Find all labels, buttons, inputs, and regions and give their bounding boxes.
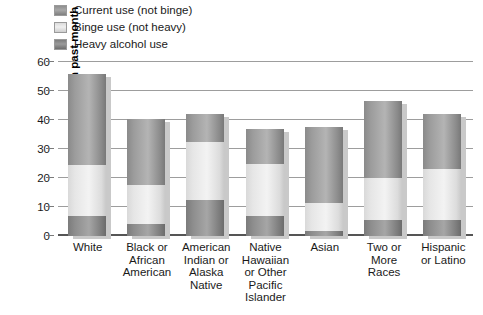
legend-label: Heavy alcohol use: [74, 38, 168, 51]
y-axis-tick-mark: [46, 148, 54, 149]
bar-group: [423, 62, 461, 236]
y-axis-tick-label: 60: [4, 57, 50, 69]
bar-segment-binge-use: [364, 178, 402, 220]
bar-segment-binge-use: [423, 169, 461, 220]
legend-swatch-current-use-icon: [54, 5, 67, 16]
x-axis-label-line: or Other: [232, 266, 299, 279]
x-axis-label-line: Two or: [350, 241, 417, 254]
chart-legend: Current use (not binge) Binge use (not h…: [54, 2, 314, 53]
y-axis-tick-label: 30: [4, 144, 50, 156]
bar-segment-heavy-use: [68, 216, 106, 236]
x-axis-label-line: Indian or: [173, 254, 240, 267]
x-axis-label-line: American: [113, 266, 180, 279]
bar-segment-current-use: [364, 101, 402, 178]
bar-segment-heavy-use: [423, 220, 461, 236]
stacked-bar: [246, 129, 284, 236]
x-axis-category-label: Black orAfricanAmerican: [113, 241, 180, 279]
x-axis-label-line: Hawaiian: [232, 254, 299, 267]
x-axis-label-line: Pacific: [232, 279, 299, 292]
y-axis-tick-mark: [46, 206, 54, 207]
x-axis-label-line: Races: [350, 266, 417, 279]
x-axis-label-line: Islander: [232, 291, 299, 304]
bar-group: [305, 62, 343, 236]
bar-group: [127, 62, 165, 236]
y-axis-tick-label: 0: [4, 231, 50, 243]
stacked-bar: [127, 119, 165, 236]
x-axis-label-line: Black or: [113, 241, 180, 254]
bar-segment-binge-use: [186, 142, 224, 200]
legend-item: Current use (not binge): [54, 2, 314, 18]
y-axis-tick-label: 20: [4, 173, 50, 185]
x-axis-label-line: Alaska: [173, 266, 240, 279]
stacked-bar: [364, 101, 402, 236]
bar-segment-binge-use: [246, 164, 284, 217]
x-axis-category-label: Asian: [291, 241, 358, 254]
x-axis-label-line: African: [113, 254, 180, 267]
bar-segment-current-use: [186, 114, 224, 142]
stacked-bar: [423, 114, 461, 236]
legend-item: Heavy alcohol use: [54, 36, 314, 52]
bar-series-container: [58, 62, 473, 236]
legend-swatch-binge-use-icon: [54, 22, 67, 33]
x-axis-category-label: AmericanIndian orAlaskaNative: [173, 241, 240, 291]
x-axis-label-line: Asian: [291, 241, 358, 254]
x-axis-category-label: White: [54, 241, 121, 254]
bar-segment-heavy-use: [127, 224, 165, 236]
x-axis-label-line: White: [54, 241, 121, 254]
stacked-bar: [68, 74, 106, 236]
bar-segment-binge-use: [68, 165, 106, 215]
bar-segment-binge-use: [305, 203, 343, 231]
x-axis-label-line: Native: [232, 241, 299, 254]
legend-label: Binge use (not heavy): [74, 21, 186, 34]
x-axis-category-label: NativeHawaiianor OtherPacificIslander: [232, 241, 299, 304]
x-axis-label-line: American: [173, 241, 240, 254]
legend-swatch-heavy-use-icon: [54, 39, 67, 50]
x-axis-category-label: Two orMoreRaces: [350, 241, 417, 279]
bar-group: [68, 62, 106, 236]
y-axis-tick-label: 50: [4, 86, 50, 98]
y-axis-tick-mark: [46, 119, 54, 120]
x-axis-category-label: Hispanicor Latino: [410, 241, 477, 266]
bar-segment-heavy-use: [246, 216, 284, 236]
bar-segment-heavy-use: [364, 220, 402, 236]
bar-group: [186, 62, 224, 236]
x-axis-label-line: or Latino: [410, 254, 477, 267]
stacked-bar: [186, 114, 224, 236]
bar-segment-current-use: [423, 114, 461, 169]
y-axis-tick-label: 10: [4, 202, 50, 214]
x-axis-label-line: Native: [173, 279, 240, 292]
y-axis-tick-mark: [46, 90, 54, 91]
bar-segment-current-use: [305, 127, 343, 202]
x-axis-labels: WhiteBlack orAfricanAmericanAmericanIndi…: [58, 241, 473, 315]
y-axis-tick-label: 40: [4, 115, 50, 127]
stacked-bar: [305, 127, 343, 236]
y-axis-tick-mark: [46, 235, 54, 236]
y-axis-tick-mark: [46, 61, 54, 62]
x-axis-label-line: More: [350, 254, 417, 267]
bar-segment-current-use: [246, 129, 284, 164]
x-axis-label-line: Hispanic: [410, 241, 477, 254]
bar-segment-current-use: [68, 74, 106, 166]
bar-segment-heavy-use: [305, 231, 343, 237]
bar-group: [246, 62, 284, 236]
legend-item: Binge use (not heavy): [54, 19, 314, 35]
bar-group: [364, 62, 402, 236]
bar-segment-binge-use: [127, 185, 165, 224]
bar-segment-heavy-use: [186, 200, 224, 236]
bar-segment-current-use: [127, 119, 165, 186]
legend-label: Current use (not binge): [74, 4, 192, 17]
y-axis-tick-mark: [46, 177, 54, 178]
y-axis-ticks: 0102030405060: [0, 62, 50, 236]
